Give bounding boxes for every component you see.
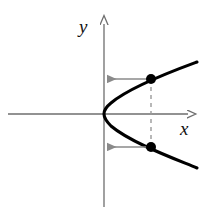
parabola-figure: y x xyxy=(0,0,201,207)
graph-canvas xyxy=(0,0,201,207)
y-axis-label: y xyxy=(79,17,87,36)
x-axis-label: x xyxy=(180,119,188,138)
upper-intersection-point xyxy=(146,74,156,84)
lower-intersection-point xyxy=(146,142,156,152)
